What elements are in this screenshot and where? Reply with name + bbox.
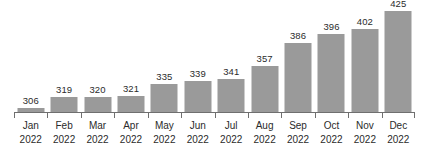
x-axis-label: Mar2022 [81, 119, 114, 146]
bar-chart: 306319320321335339341357386396402425 Jan… [0, 0, 425, 155]
bar-group: 341 [215, 4, 248, 113]
axis-tick [382, 113, 383, 118]
bar[interactable] [218, 79, 245, 113]
x-axis-label-line: 2022 [47, 133, 80, 147]
x-axis-label-line: Dec [382, 119, 415, 133]
x-axis-label-line: 2022 [81, 133, 114, 147]
x-axis-label-line: 2022 [348, 133, 381, 147]
bar-value-label: 335 [156, 72, 172, 82]
bar-group: 335 [148, 4, 181, 113]
x-axis-label: Jun2022 [181, 119, 214, 146]
bar[interactable] [151, 84, 178, 113]
x-axis-label-line: Feb [47, 119, 80, 133]
bar-value-label: 321 [123, 84, 139, 94]
axis-tick [81, 113, 82, 118]
bar-value-label: 396 [323, 22, 339, 32]
x-axis-label: Sep2022 [281, 119, 314, 146]
bar-value-label: 339 [190, 69, 206, 79]
bar-value-label: 357 [257, 54, 273, 64]
axis-tick [148, 113, 149, 118]
bar[interactable] [251, 66, 278, 113]
bar-value-label: 341 [223, 67, 239, 77]
bar[interactable] [385, 11, 412, 113]
x-axis-label-line: 2022 [248, 133, 281, 147]
axis-tick [14, 113, 15, 118]
x-axis-label-line: 2022 [215, 133, 248, 147]
x-axis-label-line: 2022 [14, 133, 47, 147]
bar-value-label: 306 [23, 96, 39, 106]
axis-tick [348, 113, 349, 118]
bar-group: 357 [248, 4, 281, 113]
bar-group: 306 [14, 4, 47, 113]
bar[interactable] [351, 29, 378, 113]
bar-value-label: 402 [357, 17, 373, 27]
x-axis-label: May2022 [148, 119, 181, 146]
x-axis-label-line: Sep [281, 119, 314, 133]
x-axis-label: Jan2022 [14, 119, 47, 146]
bar-group: 402 [348, 4, 381, 113]
axis-tick [114, 113, 115, 118]
x-axis-label: Apr2022 [114, 119, 147, 146]
x-axis-label: Dec2022 [382, 119, 415, 146]
x-axis-label-line: Jul [215, 119, 248, 133]
bar-group: 339 [181, 4, 214, 113]
x-axis-label-line: 2022 [281, 133, 314, 147]
bar[interactable] [84, 97, 111, 113]
bar-value-label: 386 [290, 31, 306, 41]
axis-tick [414, 113, 415, 118]
x-axis-ticks [14, 113, 415, 118]
x-axis-label-line: Mar [81, 119, 114, 133]
bar-group: 396 [315, 4, 348, 113]
x-axis-label: Nov2022 [348, 119, 381, 146]
bar-group: 386 [281, 4, 314, 113]
plot-area: 306319320321335339341357386396402425 [14, 4, 415, 113]
x-axis-label: Oct2022 [315, 119, 348, 146]
bar[interactable] [184, 81, 211, 113]
x-axis-label: Jul2022 [215, 119, 248, 146]
x-axis-label-line: Jan [14, 119, 47, 133]
x-axis-label-line: 2022 [382, 133, 415, 147]
x-axis-category-labels: Jan2022Feb2022Mar2022Apr2022May2022Jun20… [14, 119, 415, 153]
bar[interactable] [51, 97, 78, 113]
x-axis-label-line: May [148, 119, 181, 133]
bar[interactable] [318, 34, 345, 113]
x-axis-label-line: Oct [315, 119, 348, 133]
x-axis-label-line: 2022 [114, 133, 147, 147]
x-axis-label-line: 2022 [181, 133, 214, 147]
axis-tick [281, 113, 282, 118]
x-axis-label: Feb2022 [47, 119, 80, 146]
x-axis-label-line: 2022 [148, 133, 181, 147]
x-axis-label-line: Aug [248, 119, 281, 133]
bar-group: 319 [47, 4, 80, 113]
axis-tick [315, 113, 316, 118]
bar[interactable] [117, 96, 144, 113]
bar-value-label: 320 [89, 85, 105, 95]
axis-tick [215, 113, 216, 118]
bar-value-label: 425 [390, 0, 406, 9]
bar[interactable] [285, 43, 312, 113]
x-axis-label-line: Jun [181, 119, 214, 133]
x-axis-label-line: Nov [348, 119, 381, 133]
axis-tick [181, 113, 182, 118]
bar-value-label: 319 [56, 85, 72, 95]
axis-tick [47, 113, 48, 118]
x-axis-label-line: Apr [114, 119, 147, 133]
axis-tick [248, 113, 249, 118]
bar-group: 425 [382, 4, 415, 113]
bar-group: 321 [114, 4, 147, 113]
bar-group: 320 [81, 4, 114, 113]
x-axis-label-line: 2022 [315, 133, 348, 147]
x-axis-label: Aug2022 [248, 119, 281, 146]
